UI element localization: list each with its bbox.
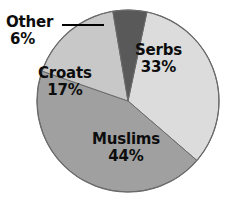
pie-label-other-value: 6%: [6, 31, 53, 48]
pie-label-muslims-name: Muslims: [92, 131, 160, 148]
pie-label-croats-value: 17%: [38, 82, 92, 99]
pie-chart: Serbs 33% Muslims 44% Croats 17% Other 6…: [0, 0, 234, 202]
pie-label-muslims: Muslims 44%: [92, 131, 160, 165]
pie-label-serbs-value: 33%: [135, 59, 182, 76]
pie-label-croats: Croats 17%: [38, 65, 92, 99]
pie-label-serbs: Serbs 33%: [135, 42, 182, 76]
pie-label-other: Other 6%: [6, 14, 53, 48]
pie-label-muslims-value: 44%: [92, 148, 160, 165]
pie-label-other-name: Other: [6, 14, 53, 31]
pie-label-croats-name: Croats: [38, 65, 92, 82]
pie-label-serbs-name: Serbs: [135, 42, 182, 59]
